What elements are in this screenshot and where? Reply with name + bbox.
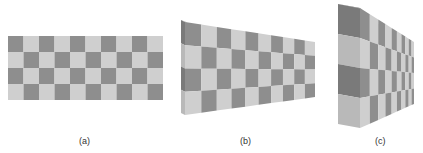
checker-cell — [392, 71, 397, 93]
checker-cell — [397, 31, 402, 53]
checker-cell — [8, 52, 24, 68]
checker-cell — [217, 69, 232, 90]
checker-cell — [185, 91, 201, 115]
checker-cell — [132, 52, 148, 68]
checker-cell — [412, 73, 414, 89]
checker-cell — [283, 37, 294, 54]
checker-cell — [86, 36, 102, 52]
checker-cell — [409, 73, 412, 90]
checker-cell — [259, 51, 272, 69]
checker-cell — [271, 35, 283, 53]
checker-cell — [385, 47, 391, 71]
checker-cell — [55, 52, 71, 68]
checker-cell — [217, 89, 232, 111]
checker-cell — [117, 52, 133, 68]
checker-cell — [385, 70, 391, 93]
checker-cell — [70, 84, 86, 100]
checker-cell — [245, 50, 258, 69]
checker-cell — [271, 85, 283, 103]
checker-cell — [378, 19, 385, 47]
checker-cell — [360, 68, 370, 98]
checker-cell — [70, 68, 86, 84]
checker-cell — [360, 38, 370, 69]
checker-cell — [405, 54, 408, 72]
checker-cell — [409, 89, 412, 106]
checker-cell — [405, 37, 408, 56]
checker-cell — [405, 72, 408, 90]
checker-cell — [245, 87, 258, 107]
checker-cell — [360, 8, 370, 42]
checker-cell — [412, 57, 414, 73]
checker-cell — [101, 36, 117, 52]
checker-cell — [401, 34, 405, 54]
panel-b-label: (b) — [240, 136, 251, 146]
checker-cell — [305, 83, 315, 98]
checker-cell — [305, 55, 315, 70]
checker-cell — [283, 69, 294, 85]
checker-cell — [39, 52, 55, 68]
checker-cell — [132, 84, 148, 100]
checker-cell — [70, 52, 86, 68]
panel-b-perspective-checkerboard — [181, 20, 315, 115]
checker-cell — [55, 68, 71, 84]
checker-cell — [294, 69, 305, 84]
checker-cell — [231, 69, 245, 89]
checker-cell — [101, 84, 117, 100]
checker-cell — [24, 36, 40, 52]
checker-cell — [201, 69, 216, 91]
checker-cell — [185, 22, 201, 47]
checker-cell — [8, 68, 24, 84]
checker-cell — [148, 52, 164, 68]
checker-cell — [201, 47, 216, 69]
checker-cell — [86, 68, 102, 84]
checker-cell — [245, 31, 258, 51]
checker-cell — [148, 36, 164, 52]
checker-cell — [231, 29, 245, 50]
checker-cell — [8, 84, 24, 100]
checker-cell — [39, 68, 55, 84]
panel-a-label: (a) — [79, 136, 90, 146]
checker-cell — [8, 36, 24, 52]
checker-cell — [148, 68, 164, 84]
checker-cell — [231, 88, 245, 109]
checker-cell — [370, 42, 378, 70]
checker-cell — [294, 84, 305, 100]
checker-cell — [259, 86, 272, 105]
panel-c-strong-perspective-checkerboard — [338, 4, 414, 128]
checker-cell — [117, 84, 133, 100]
checker-cell — [201, 25, 216, 48]
checker-cell — [401, 90, 405, 110]
checker-cell — [217, 27, 232, 49]
checker-cell — [305, 40, 315, 55]
side-cell — [338, 4, 360, 38]
checker-cell — [55, 36, 71, 52]
checker-cell — [370, 69, 378, 96]
checker-cell — [24, 68, 40, 84]
checker-cell — [24, 52, 40, 68]
checker-cell — [378, 70, 385, 95]
side-cell — [181, 20, 185, 45]
checkerboard-figure — [0, 0, 423, 153]
checker-cell — [86, 52, 102, 68]
checker-cell — [397, 51, 402, 72]
panel-a-flat-checkerboard — [8, 36, 163, 100]
checker-cell — [259, 69, 272, 87]
side-cell — [338, 64, 360, 98]
checker-cell — [55, 84, 71, 100]
checker-cell — [378, 94, 385, 120]
checker-cell — [385, 24, 391, 49]
checker-cell — [117, 68, 133, 84]
checker-cell — [370, 14, 378, 44]
checker-cell — [245, 69, 258, 88]
checker-cell — [412, 89, 414, 106]
checker-cell — [283, 85, 294, 102]
checker-cell — [397, 71, 402, 91]
checker-cell — [24, 84, 40, 100]
checker-cell — [86, 84, 102, 100]
checker-cell — [405, 89, 408, 107]
checker-cell — [271, 69, 283, 86]
checker-cell — [401, 53, 405, 72]
checker-cell — [392, 28, 397, 51]
side-cell — [181, 67, 185, 92]
checker-cell — [231, 49, 245, 69]
